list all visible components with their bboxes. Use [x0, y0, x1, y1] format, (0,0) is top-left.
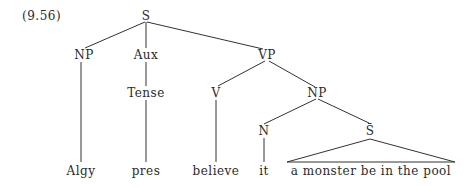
- tree-branches: [0, 0, 475, 188]
- node-vp: VP: [258, 49, 276, 61]
- leaf-believe: believe: [193, 165, 240, 177]
- example-number: (9.56): [22, 10, 61, 22]
- node-n: N: [259, 125, 270, 137]
- node-v: V: [211, 87, 220, 99]
- leaf-it: it: [259, 165, 269, 177]
- node-np: NP: [74, 49, 94, 61]
- node-aux: Aux: [134, 49, 159, 61]
- leaf-pres: pres: [132, 165, 161, 177]
- leaf-algy: Algy: [67, 165, 96, 177]
- node-tense: Tense: [127, 87, 165, 99]
- node-s-bar: S̄: [366, 125, 375, 137]
- node-np-object: NP: [307, 87, 327, 99]
- leaf-clause: a monster be in the pool: [291, 165, 451, 177]
- node-s: S: [142, 10, 151, 22]
